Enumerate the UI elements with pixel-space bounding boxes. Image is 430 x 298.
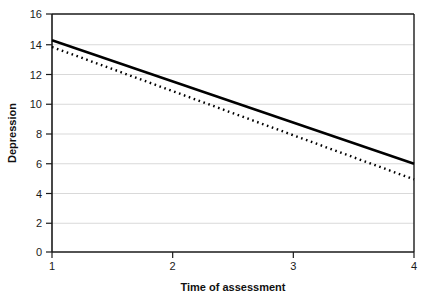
plot-background (52, 14, 414, 252)
y-tick-label-8: 8 (36, 128, 42, 140)
y-tick-label-16: 16 (30, 8, 42, 20)
x-tick-label-3: 3 (290, 260, 296, 272)
x-tick-label-2: 2 (170, 260, 176, 272)
y-tick-label-10: 10 (30, 98, 42, 110)
x-axis-ticks (52, 252, 414, 258)
y-tick-label-4: 4 (36, 188, 42, 200)
y-tick-label-12: 12 (30, 69, 42, 81)
y-axis-title: Depression (6, 103, 18, 163)
y-tick-label-6: 6 (36, 158, 42, 170)
chart-figure: 16 14 12 10 8 6 4 2 0 1 2 3 4 D (0, 0, 430, 298)
x-tick-label-1: 1 (49, 260, 55, 272)
y-tick-label-14: 14 (30, 39, 42, 51)
y-axis-tick-labels: 16 14 12 10 8 6 4 2 0 (30, 8, 42, 258)
x-axis-tick-labels: 1 2 3 4 (49, 260, 417, 272)
x-axis-title: Time of assessment (181, 281, 286, 293)
line-chart-canvas: 16 14 12 10 8 6 4 2 0 1 2 3 4 D (0, 0, 430, 298)
y-axis-ticks (46, 14, 52, 252)
y-tick-label-0: 0 (36, 246, 42, 258)
x-tick-label-4: 4 (411, 260, 417, 272)
y-tick-label-2: 2 (36, 217, 42, 229)
